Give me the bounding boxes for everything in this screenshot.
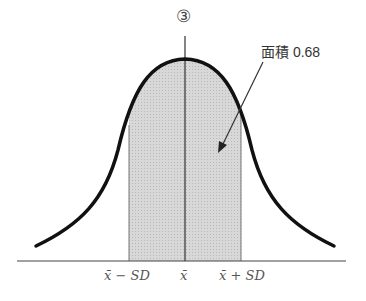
x-label-plus-sd: x̄ + SD bbox=[219, 268, 265, 283]
x-label-minus-sd: x̄ − SD bbox=[104, 268, 150, 283]
x-label-mean: x̄ bbox=[180, 268, 187, 283]
area-label: 面積 0.68 bbox=[261, 41, 320, 61]
normal-distribution-diagram: ③ 面積 0.68 x̄ − SD x̄ x̄ + SD bbox=[0, 0, 366, 301]
marker-label: ③ bbox=[176, 6, 191, 26]
